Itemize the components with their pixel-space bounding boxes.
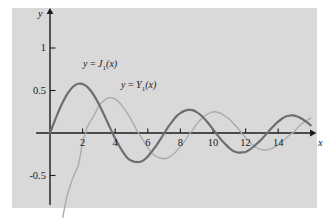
y-tick-label: 0.5 bbox=[33, 86, 46, 97]
x-tick-label: 12 bbox=[237, 138, 255, 149]
y-axis-arrowhead bbox=[47, 8, 54, 14]
label-y1-lhs: y bbox=[121, 79, 125, 90]
label-j1-eq: = bbox=[90, 58, 96, 69]
y-tick-label: -0.5 bbox=[29, 171, 46, 182]
x-axis-arrowhead bbox=[310, 129, 317, 136]
x-axis-label: x bbox=[318, 138, 323, 149]
label-j1-arg: (x) bbox=[106, 58, 117, 69]
bessel-function-figure: 2468101214-0.50.51 y x y = J1(x) y = Y1(… bbox=[0, 0, 329, 218]
label-y1-eq: = bbox=[128, 79, 134, 90]
y-tick-label: 1 bbox=[41, 43, 46, 54]
plot-canvas bbox=[0, 0, 329, 218]
label-j1-lhs: y bbox=[83, 58, 87, 69]
axes-group bbox=[36, 8, 316, 205]
x-tick-label: 14 bbox=[269, 138, 287, 149]
x-tick-label: 4 bbox=[106, 138, 124, 149]
data-curves-group bbox=[50, 83, 311, 218]
label-y1-arg: (x) bbox=[145, 79, 156, 90]
y-axis-ticks bbox=[50, 48, 56, 176]
x-tick-label: 10 bbox=[204, 138, 222, 149]
curve-bessel-y1 bbox=[60, 98, 311, 218]
x-tick-label: 2 bbox=[74, 138, 92, 149]
x-tick-label: 8 bbox=[171, 138, 189, 149]
curve-label-y1: y = Y1(x) bbox=[121, 80, 156, 93]
x-tick-label: 6 bbox=[139, 138, 157, 149]
y-axis-label: y bbox=[38, 9, 43, 20]
curve-label-j1: y = J1(x) bbox=[83, 59, 117, 72]
